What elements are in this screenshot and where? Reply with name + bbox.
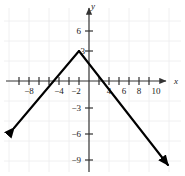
coordinate-plane-svg: −8 −4 −2 4 6 8 10 6 −3 −6 −9 3 x y	[0, 0, 185, 176]
y-tick-label: 6	[77, 26, 82, 36]
x-tick-label: 6	[122, 86, 127, 96]
x-tick-label: 8	[137, 86, 142, 96]
graph-figure: −8 −4 −2 4 6 8 10 6 −3 −6 −9 3 x y	[0, 0, 185, 176]
x-tick-label: −4	[54, 86, 64, 96]
y-tick-label: −6	[71, 129, 81, 139]
y-axis	[85, 8, 93, 172]
x-tick-label: 10	[152, 86, 162, 96]
y-tick-label: −9	[71, 155, 81, 165]
x-axis-label: x	[173, 76, 178, 86]
y-axis-label: y	[90, 1, 95, 11]
y-tick-label: −3	[71, 103, 81, 113]
x-tick-label: −8	[24, 86, 34, 96]
x-tick-label: −2	[71, 86, 81, 96]
x-axis	[6, 77, 166, 85]
